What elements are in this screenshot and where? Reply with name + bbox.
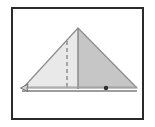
- figure-root: [0, 0, 155, 127]
- geometry-diagram: [0, 0, 155, 127]
- base-point-dot: [104, 86, 108, 90]
